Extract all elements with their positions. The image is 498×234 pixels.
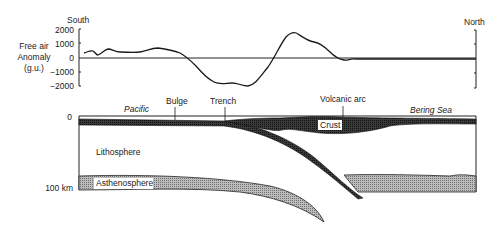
depth-0-label: 0 bbox=[67, 112, 72, 122]
cross-section: 0 100 km Pacific Bulge Trench Volcanic a… bbox=[45, 94, 476, 222]
ytick-2000: 2000 bbox=[55, 25, 74, 35]
anomaly-curve bbox=[84, 33, 476, 86]
gravity-profile: South North Free air Anomaly (g.u.) 2000… bbox=[17, 15, 485, 91]
south-label: South bbox=[67, 15, 89, 25]
ytick-0: 0 bbox=[69, 53, 74, 63]
pacific-label: Pacific bbox=[124, 104, 150, 114]
ytick-neg1000: −1000 bbox=[50, 67, 74, 77]
ylabel-line1: Free air bbox=[19, 41, 48, 51]
north-label: North bbox=[464, 17, 485, 27]
volcanic-arc-label: Volcanic arc bbox=[320, 94, 367, 104]
ylabel-line3: (g.u.) bbox=[24, 63, 44, 73]
ytick-neg2000: −2000 bbox=[50, 81, 74, 91]
asthenosphere-label: Asthenosphere bbox=[96, 178, 153, 188]
crust-label: Crust bbox=[320, 120, 341, 130]
subduction-diagram: South North Free air Anomaly (g.u.) 2000… bbox=[0, 0, 498, 234]
lithosphere-label: Lithosphere bbox=[96, 147, 141, 157]
ytick-1000: 1000 bbox=[55, 39, 74, 49]
depth-100km-label: 100 km bbox=[45, 183, 73, 193]
ylabel-line2: Anomaly bbox=[17, 52, 51, 62]
trench-label: Trench bbox=[210, 96, 236, 106]
asthenosphere-bering bbox=[344, 175, 476, 192]
bulge-label: Bulge bbox=[166, 96, 188, 106]
bering-sea-label: Bering Sea bbox=[410, 105, 452, 115]
